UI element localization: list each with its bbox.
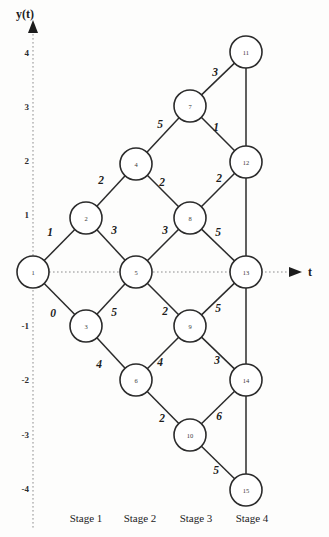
y-axis-tick--2: -2 — [22, 375, 30, 385]
y-axis-tick-3: 3 — [25, 102, 30, 112]
edge-label-10-15: 5 — [213, 464, 219, 476]
node-label-2: 2 — [84, 215, 87, 222]
node-15[interactable]: 15 — [230, 474, 262, 506]
edge-label-2-4: 2 — [97, 174, 104, 186]
node-13[interactable]: 13 — [230, 256, 262, 288]
y-axis-tick--4: -4 — [22, 484, 30, 494]
stage-label-4: Stage 4 — [236, 512, 269, 524]
node-label-10: 10 — [187, 432, 194, 439]
y-axis-tick--3: -3 — [22, 430, 30, 440]
stage-label-1: Stage 1 — [70, 512, 103, 524]
y-axis-tick-4: 4 — [25, 48, 30, 58]
node-7[interactable]: 7 — [174, 90, 206, 122]
edge-4-7 — [147, 118, 179, 153]
node-label-5: 5 — [134, 269, 137, 276]
edge-label-2-5: 3 — [110, 224, 117, 236]
node-10[interactable]: 10 — [174, 419, 206, 451]
edge-6-9 — [147, 337, 178, 368]
y-axis-label: y(t) — [16, 7, 34, 21]
edge-label-4-8: 2 — [158, 176, 165, 188]
node-label-13: 13 — [243, 269, 250, 276]
x-axis-label: t — [308, 265, 312, 279]
edge-label-5-8: 3 — [161, 224, 168, 236]
node-6[interactable]: 6 — [120, 364, 152, 396]
node-2[interactable]: 2 — [70, 202, 102, 234]
axes-group: y(t)t4321-1-2-3-4 — [16, 7, 312, 530]
edge-label-3-6: 4 — [95, 358, 102, 370]
node-14[interactable]: 14 — [230, 364, 262, 396]
node-4[interactable]: 4 — [120, 148, 152, 180]
edge-label-9-14: 3 — [213, 354, 220, 366]
stage-label-3: Stage 3 — [180, 512, 213, 524]
edge-7-11 — [202, 63, 235, 95]
node-11[interactable]: 11 — [230, 36, 262, 68]
node-label-14: 14 — [243, 377, 250, 384]
node-label-12: 12 — [243, 159, 250, 166]
lattice-graph: y(t)t4321-1-2-3-4 10235452324231255365 1… — [0, 0, 329, 537]
edge-label-8-12: 2 — [215, 172, 222, 184]
edge-label-7-11: 3 — [211, 66, 218, 78]
edge-1-3 — [44, 283, 75, 314]
edge-label-4-7: 5 — [157, 118, 163, 130]
edge-label-6-9: 4 — [156, 356, 163, 368]
node-label-1: 1 — [31, 269, 34, 276]
y-axis-tick-1: 1 — [25, 210, 30, 220]
node-label-9: 9 — [188, 323, 191, 330]
node-8[interactable]: 8 — [174, 202, 206, 234]
edge-label-8-13: 5 — [215, 226, 221, 238]
stage-labels-group: Stage 1Stage 2Stage 3Stage 4 — [70, 512, 269, 524]
edge-label-9-13: 5 — [215, 302, 221, 314]
node-label-11: 11 — [243, 49, 249, 56]
node-label-3: 3 — [84, 323, 87, 330]
diagram-canvas: y(t)t4321-1-2-3-4 10235452324231255365 1… — [0, 0, 329, 537]
edge-label-10-14: 6 — [216, 410, 222, 422]
y-axis-tick--1: -1 — [22, 321, 30, 331]
node-1[interactable]: 1 — [17, 256, 49, 288]
node-label-15: 15 — [243, 487, 250, 494]
edge-label-5-9: 2 — [161, 305, 168, 317]
y-axis-tick-2: 2 — [25, 156, 30, 166]
node-5[interactable]: 5 — [120, 256, 152, 288]
edge-label-6-10: 2 — [158, 412, 165, 424]
edge-label-7-12: 1 — [213, 121, 219, 133]
edge-label-1-2: 1 — [47, 226, 53, 238]
node-3[interactable]: 3 — [70, 310, 102, 342]
stage-label-2: Stage 2 — [124, 512, 157, 524]
node-label-8: 8 — [188, 215, 191, 222]
nodes-group: 123456789101112131415 — [17, 36, 262, 506]
node-9[interactable]: 9 — [174, 310, 206, 342]
node-12[interactable]: 12 — [230, 146, 262, 178]
x-axis-arrow-icon — [289, 267, 302, 277]
y-axis-arrow-icon — [28, 20, 38, 33]
edge-label-1-3: 0 — [50, 307, 56, 319]
edge-label-3-5: 5 — [111, 306, 117, 318]
